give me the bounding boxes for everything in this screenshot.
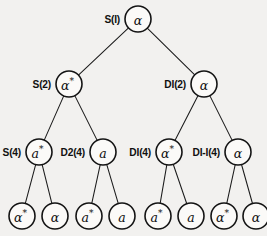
node-d24-symbol: a (99, 145, 106, 160)
edge-di4-leaf5 (160, 165, 167, 203)
leaf-a-2[interactable]: a (178, 203, 204, 229)
node-di2-tag: DI(2) (164, 79, 186, 90)
edge-di4-leaf6 (173, 164, 187, 203)
edge-di2-di4 (175, 96, 198, 141)
derivation-tree-figure: S(I)αS(2)α*DI(2)αS(4)a*D2(4)aDI(4)α*DI-I… (0, 0, 267, 236)
edge-dii4-leaf8 (242, 165, 253, 204)
edge-d24-leaf3 (92, 165, 100, 204)
edge-d24-leaf4 (107, 164, 119, 203)
leaf-a-star-1-kleene-star: * (89, 208, 94, 218)
leaf-a-1-symbol: a (118, 209, 125, 224)
node-s1-symbol-base: α (134, 12, 143, 27)
leaf-a-star-2[interactable]: a* (145, 203, 171, 229)
leaf-alpha-star-1-kleene-star: * (22, 208, 27, 218)
leaf-a-2-symbol: a (187, 209, 194, 224)
node-s4[interactable]: S(4)a* (3, 139, 52, 165)
node-s1[interactable]: S(I)α (104, 6, 151, 32)
leaf-alpha-1-symbol-base: α (51, 209, 60, 224)
node-di2-symbol-base: α (200, 77, 209, 92)
edge-s4-leaf2 (42, 165, 52, 204)
node-dii4-tag: DI-I(4) (193, 147, 220, 158)
leaf-a-1[interactable]: a (109, 203, 135, 229)
node-s4-symbol-base: a (32, 145, 39, 160)
leaf-a-star-1[interactable]: a* (76, 203, 102, 229)
leaf-alpha-star-2-kleene-star: * (224, 208, 229, 218)
node-di2[interactable]: DI(2)α (164, 71, 217, 97)
leaf-alpha-star-1[interactable]: α* (9, 203, 35, 229)
edge-dii4-leaf7 (227, 165, 235, 204)
leaf-alpha-1[interactable]: α (42, 203, 68, 229)
node-d24-symbol-base: a (99, 145, 106, 160)
node-layer: S(I)αS(2)α*DI(2)αS(4)a*D2(4)aDI(4)α*DI-I… (3, 6, 267, 229)
node-s1-symbol: α (134, 12, 143, 27)
node-di4-kleene-star: * (169, 144, 174, 154)
edge-s4-leaf1 (25, 165, 35, 204)
leaf-alpha-1-symbol: α (51, 209, 60, 224)
leaf-a-star-2-kleene-star: * (158, 208, 163, 218)
node-di4[interactable]: DI(4)α* (129, 139, 182, 165)
tree-canvas: S(I)αS(2)α*DI(2)αS(4)a*D2(4)aDI(4)α*DI-I… (0, 0, 267, 236)
leaf-a-star-2-symbol-base: a (151, 209, 158, 224)
node-dii4[interactable]: DI-I(4)α (193, 139, 251, 165)
node-di4-tag: DI(4) (129, 147, 151, 158)
edge-layer (25, 28, 252, 204)
leaf-a-star-1-symbol-base: a (82, 209, 89, 224)
edge-s1-di2 (147, 28, 194, 75)
node-s2-kleene-star: * (69, 76, 74, 86)
node-s2[interactable]: S(2)α* (33, 71, 82, 97)
node-s4-tag: S(4) (3, 147, 21, 158)
leaf-alpha-2[interactable]: α (243, 203, 267, 229)
edge-s2-s4 (44, 96, 64, 140)
node-d24[interactable]: D2(4)a (61, 139, 116, 165)
node-dii4-symbol: α (234, 145, 243, 160)
node-s4-kleene-star: * (39, 144, 44, 154)
node-dii4-symbol-base: α (234, 145, 243, 160)
leaf-alpha-2-symbol: α (252, 209, 261, 224)
edge-di2-dii4 (210, 96, 232, 141)
edge-s1-s2 (78, 28, 128, 75)
node-s1-tag: S(I) (104, 14, 120, 25)
leaf-alpha-star-2[interactable]: α* (211, 203, 237, 229)
node-d24-tag: D2(4) (61, 147, 85, 158)
node-s2-tag: S(2) (33, 79, 51, 90)
leaf-alpha-2-symbol-base: α (252, 209, 261, 224)
leaf-a-2-symbol-base: a (187, 209, 194, 224)
leaf-a-1-symbol-base: a (118, 209, 125, 224)
edge-s2-d24 (75, 96, 97, 141)
node-di2-symbol: α (200, 77, 209, 92)
